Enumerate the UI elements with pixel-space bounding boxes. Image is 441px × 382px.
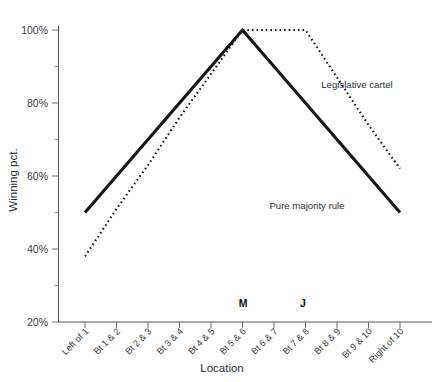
x-tick-label: Bt 7 & 8 [281,326,311,356]
chart-container: 20%40%60%80%100% Winning pct. Left of 1B… [0,0,441,382]
x-axis-tick-labels: Left of 1Bt 1 & 2Bt 2 & 3Bt 3 & 4Bt 4 & … [60,326,406,364]
x-tick-label: Left of 1 [60,326,91,357]
x-axis: Left of 1Bt 1 & 2Bt 2 & 3Bt 3 & 4Bt 4 & … [59,322,433,374]
annotation-label: Legislative cartel [321,79,392,90]
y-axis: 20%40%60%80%100% Winning pct. [7,24,59,328]
x-tick-label: Right of 10 [367,326,405,364]
series-annotations: Legislative cartelPure majority rule [269,79,392,211]
y-tick-label: 80% [27,97,48,109]
y-tick-label: 100% [21,24,48,36]
y-tick-label: 60% [27,170,48,182]
axis-marker-m: M [239,297,248,309]
y-tick-label: 20% [27,316,48,328]
x-tick-label: Bt 4 & 5 [186,326,216,356]
y-axis-title: Winning pct. [7,148,19,211]
x-tick-label: Bt 5 & 6 [218,326,248,356]
winning-pct-line-chart: 20%40%60%80%100% Winning pct. Left of 1B… [0,0,441,382]
axis-marker-j: J [300,297,306,309]
y-axis-tick-labels: 20%40%60%80%100% [21,24,48,328]
x-tick-label: Bt 3 & 4 [155,326,185,356]
x-tick-label: Bt 6 & 7 [249,326,279,356]
y-axis-ticks [52,30,59,322]
x-tick-label: Bt 2 & 3 [123,326,153,356]
x-axis-ticks [85,322,400,328]
data-series-layer [85,30,400,256]
axis-marker-labels: MJ [239,297,306,309]
series-solid [85,30,400,213]
series-dotted [85,30,400,256]
annotation-label: Pure majority rule [269,200,344,211]
x-tick-label: Bt 8 & 9 [312,326,342,356]
y-tick-label: 40% [27,243,48,255]
x-tick-label: Bt 1 & 2 [92,326,122,356]
x-axis-title: Location [200,362,243,374]
